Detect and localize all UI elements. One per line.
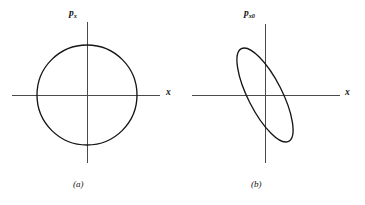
panel-a-vertical-axis-label-subscript: x bbox=[74, 12, 77, 19]
panel-b-graphics bbox=[192, 24, 340, 163]
panel-b-vertical-axis-label: px0 bbox=[244, 9, 255, 19]
panel-b-vertical-axis-label-subscript: x0 bbox=[249, 12, 255, 19]
phase-space-figure: px x (a) px0 x (b) bbox=[0, 0, 365, 205]
panel-b-horizontal-axis-label: x bbox=[345, 88, 350, 98]
panel-a-horizontal-axis-label: x bbox=[166, 88, 171, 98]
panel-a-vertical-axis-label: px bbox=[69, 9, 77, 19]
panel-b-caption: (b) bbox=[251, 180, 262, 189]
panel-a-caption: (a) bbox=[73, 180, 84, 189]
figure-canvas bbox=[0, 0, 365, 205]
panel-a-graphics bbox=[12, 22, 160, 163]
